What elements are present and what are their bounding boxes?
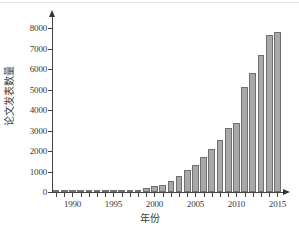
bar <box>151 186 158 192</box>
x-tick-label: 1995 <box>105 199 122 209</box>
bar <box>274 32 281 192</box>
x-tick-label: 2000 <box>146 199 163 209</box>
x-tick-mark <box>204 193 205 197</box>
y-axis-title: 论文发表数量 <box>1 46 16 146</box>
scan-artifact-line <box>0 2 299 3</box>
y-tick-label: 0 <box>43 187 47 197</box>
bar <box>127 190 134 192</box>
bar <box>69 190 76 192</box>
bar <box>241 87 248 192</box>
x-tick-mark <box>130 193 131 197</box>
y-tick-label: 4000 <box>30 105 47 115</box>
x-tick-mark <box>64 193 65 197</box>
bar <box>225 128 232 192</box>
bar <box>77 190 84 192</box>
x-tick-mark <box>236 193 237 197</box>
bar <box>110 190 117 192</box>
bar <box>249 73 256 192</box>
bar <box>61 190 68 192</box>
bar <box>159 185 166 192</box>
x-tick-mark <box>113 193 114 197</box>
x-axis-title: 年份 <box>0 210 299 225</box>
x-tick-mark <box>105 193 106 197</box>
y-tick-label: 5000 <box>30 85 47 95</box>
x-tick-mark <box>179 193 180 197</box>
x-tick-mark <box>89 193 90 197</box>
y-tick-label: 3000 <box>30 126 47 136</box>
bar <box>200 157 207 192</box>
bar <box>192 165 199 192</box>
y-tick-label: 1000 <box>30 167 47 177</box>
x-tick-mark <box>171 193 172 197</box>
chart-figure: 010002000300040005000600070008000 199019… <box>0 0 299 228</box>
bar <box>118 190 125 192</box>
x-tick-mark <box>97 193 98 197</box>
y-tick-label: 2000 <box>30 146 47 156</box>
x-tick-label: 2010 <box>228 199 245 209</box>
x-tick-label: 2015 <box>269 199 286 209</box>
x-tick-mark <box>146 193 147 197</box>
x-tick-mark <box>228 193 229 197</box>
x-tick-mark <box>220 193 221 197</box>
bar <box>176 176 183 192</box>
x-tick-label: 1990 <box>64 199 81 209</box>
x-tick-mark <box>56 193 57 197</box>
bar <box>53 190 60 192</box>
bar <box>143 188 150 192</box>
x-axis-arrow <box>283 189 290 195</box>
x-tick-mark <box>187 193 188 197</box>
x-tick-mark <box>195 193 196 197</box>
bar <box>258 55 265 192</box>
y-tick-label: 6000 <box>30 64 47 74</box>
bar <box>102 190 109 192</box>
bar <box>208 149 215 192</box>
bar-series <box>52 16 284 192</box>
x-tick-mark <box>81 193 82 197</box>
x-axis-ticks: 199019952000200520102015 <box>52 193 284 198</box>
bar <box>266 35 273 192</box>
x-tick-mark <box>253 193 254 197</box>
x-tick-mark <box>138 193 139 197</box>
bar <box>184 170 191 192</box>
bar <box>168 181 175 192</box>
bar <box>94 190 101 192</box>
x-tick-mark <box>269 193 270 197</box>
y-tick-label: 7000 <box>30 44 47 54</box>
x-tick-mark <box>261 193 262 197</box>
x-tick-mark <box>277 193 278 197</box>
bar <box>135 190 142 192</box>
x-tick-mark <box>163 193 164 197</box>
x-tick-mark <box>154 193 155 197</box>
bar <box>86 190 93 192</box>
x-tick-label: 2005 <box>187 199 204 209</box>
x-tick-mark <box>122 193 123 197</box>
y-tick-label: 8000 <box>30 23 47 33</box>
bar <box>217 140 224 192</box>
x-tick-mark <box>212 193 213 197</box>
bar <box>233 123 240 192</box>
x-tick-mark <box>72 193 73 197</box>
x-tick-mark <box>245 193 246 197</box>
